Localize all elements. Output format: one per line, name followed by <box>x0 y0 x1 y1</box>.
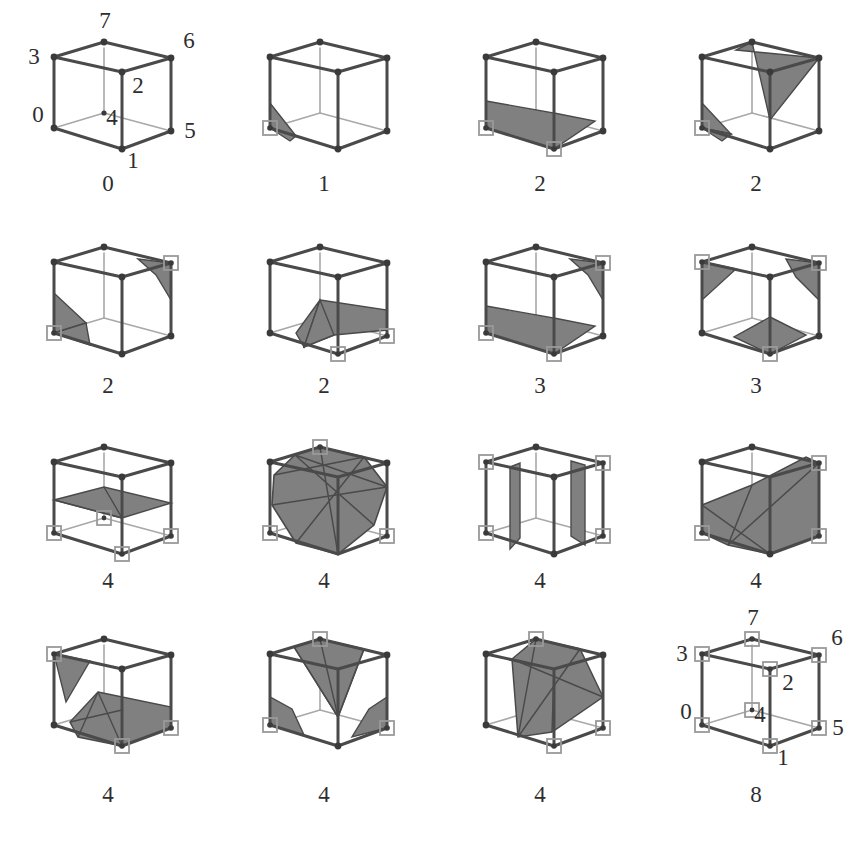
vertex-label-6: 6 <box>831 625 843 650</box>
cube-diagram-case-1 <box>224 0 424 178</box>
cube-panel-case-4e: 4 <box>0 597 216 858</box>
cube-panel-case-2a: 2 <box>432 0 648 205</box>
case-label: 0 <box>102 172 114 195</box>
case-label: 4 <box>318 783 330 806</box>
vertex-label-4: 4 <box>106 105 118 130</box>
cube-panel-case-4c: 4 <box>432 405 648 597</box>
isosurface-patches <box>270 639 387 737</box>
case-label: 4 <box>102 569 114 592</box>
case-label: 2 <box>750 172 762 195</box>
case-label: 3 <box>534 374 546 397</box>
vertex-label-5: 5 <box>832 715 844 740</box>
cube-panel-case-3b: 3 <box>648 205 864 405</box>
cube-panel-case-4b: 4 <box>216 405 432 597</box>
cube-diagram-case-4d <box>656 405 856 575</box>
cube-diagram-case-4a <box>8 405 208 575</box>
case-label: 2 <box>318 374 330 397</box>
vertex-label-7: 7 <box>747 605 759 630</box>
case-label: 4 <box>534 783 546 806</box>
case-label: 2 <box>534 172 546 195</box>
cube-diagram-case-2a <box>440 0 640 178</box>
cube-diagram-case-4e <box>8 597 208 787</box>
vertex-label-2: 2 <box>782 670 794 695</box>
case-label: 2 <box>102 374 114 397</box>
cube-panel-case-4g: 4 <box>432 597 648 858</box>
cube-panel-case-4a: 4 <box>0 405 216 597</box>
cube-panel-case-1: 1 <box>216 0 432 205</box>
cube-panel-case-3a: 3 <box>432 205 648 405</box>
cube-diagram-case-4b <box>224 405 424 575</box>
cube-diagram-case-3a <box>440 205 640 380</box>
vertex-label-1: 1 <box>777 745 789 770</box>
vertex-label-0: 0 <box>680 699 692 724</box>
case-label: 3 <box>750 374 762 397</box>
case-label: 4 <box>102 783 114 806</box>
cube-diagram-case-4c <box>440 405 640 575</box>
vertex-label-1: 1 <box>127 148 139 173</box>
cube-diagram-case-4f <box>224 597 424 787</box>
case-label: 4 <box>318 569 330 592</box>
isosurface-patches <box>486 101 603 149</box>
cube-diagram-case-2c <box>8 205 208 380</box>
vertex-label-3: 3 <box>28 44 40 69</box>
case-label: 4 <box>750 569 762 592</box>
cube-diagram-case-2d <box>224 205 424 380</box>
vertex-label-4: 4 <box>754 702 766 727</box>
case-label: 4 <box>534 569 546 592</box>
vertex-label-6: 6 <box>183 28 195 53</box>
isosurface-patches <box>54 487 171 518</box>
vertex-label-3: 3 <box>676 641 688 666</box>
vertex-label-7: 7 <box>99 8 111 33</box>
vertex-label-2: 2 <box>132 73 144 98</box>
case-label: 1 <box>318 172 330 195</box>
cube-panel-case-4d: 4 <box>648 405 864 597</box>
cube-panel-case-2b: 2 <box>648 0 864 205</box>
cube-panel-case-2d: 2 <box>216 205 432 405</box>
cube-diagram-case-2b <box>656 0 856 178</box>
cube-panel-case-8: 3 7 6 2 4 0 5 1 8 <box>648 597 864 858</box>
isosurface-patches <box>512 639 603 737</box>
cube-panel-case-2c: 2 <box>0 205 216 405</box>
case-label: 8 <box>750 783 762 806</box>
cube-diagram-case-8: 3 7 6 2 4 0 5 1 <box>656 597 856 787</box>
cube-panel-case-0: 3 7 6 2 4 0 5 1 0 <box>0 0 216 205</box>
cube-diagram-case-3b <box>656 205 856 380</box>
marching-cubes-figure: 3 7 6 2 4 0 5 1 0 <box>0 0 864 858</box>
vertex-label-5: 5 <box>184 118 196 143</box>
cube-panel-case-4f: 4 <box>216 597 432 858</box>
vertex-label-0: 0 <box>32 102 44 127</box>
cube-diagram-case-0: 3 7 6 2 4 0 5 1 <box>8 0 208 178</box>
cube-diagram-case-4g <box>440 597 640 787</box>
